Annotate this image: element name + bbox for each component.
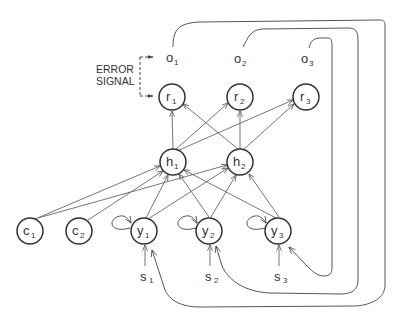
error-label-line2: SIGNAL xyxy=(96,75,135,87)
diagram-canvas: ERROR SIGNAL o 1 o 2 xyxy=(0,0,401,321)
edges-input-to-y xyxy=(145,245,279,266)
node-r1: r 1 xyxy=(159,84,185,110)
output-o2: o 2 xyxy=(234,51,247,68)
svg-text:2: 2 xyxy=(80,231,85,240)
node-r2: r 2 xyxy=(227,84,253,110)
node-c2: c 2 xyxy=(66,218,92,244)
node-h2: h 2 xyxy=(227,149,253,175)
svg-text:s: s xyxy=(274,269,281,284)
svg-text:y: y xyxy=(271,223,278,238)
svg-text:2: 2 xyxy=(241,162,246,171)
feedback-o1-y1 xyxy=(152,20,385,307)
svg-text:2: 2 xyxy=(242,59,247,68)
svg-text:r: r xyxy=(234,89,239,104)
svg-text:2: 2 xyxy=(240,97,245,106)
svg-text:c: c xyxy=(23,223,30,238)
svg-text:c: c xyxy=(72,223,79,238)
svg-text:3: 3 xyxy=(283,276,288,285)
recurrent-network-diagram: ERROR SIGNAL o 1 o 2 xyxy=(0,0,401,321)
node-y2: y 2 xyxy=(196,218,222,244)
node-c1: c 1 xyxy=(17,218,43,244)
feedback-loops xyxy=(152,20,385,307)
svg-text:1: 1 xyxy=(31,231,36,240)
svg-text:y: y xyxy=(202,223,209,238)
output-o1: o 1 xyxy=(166,50,179,67)
svg-text:3: 3 xyxy=(306,97,311,106)
svg-text:h: h xyxy=(233,154,240,169)
svg-text:3: 3 xyxy=(279,231,284,240)
svg-text:o: o xyxy=(301,51,308,66)
svg-text:s: s xyxy=(205,269,212,284)
svg-text:3: 3 xyxy=(309,59,314,68)
svg-text:r: r xyxy=(300,89,305,104)
input-s1: s 1 xyxy=(140,269,154,285)
svg-text:2: 2 xyxy=(214,276,219,285)
output-o3: o 3 xyxy=(301,51,314,68)
svg-text:s: s xyxy=(140,269,147,284)
svg-text:1: 1 xyxy=(174,58,179,67)
node-h1: h 1 xyxy=(160,149,186,175)
error-signal-bracket xyxy=(140,57,153,96)
svg-text:2: 2 xyxy=(210,231,215,240)
svg-text:h: h xyxy=(166,154,173,169)
input-s2: s 2 xyxy=(205,269,219,285)
feedback-o3-y3 xyxy=(289,38,332,276)
svg-text:1: 1 xyxy=(174,162,179,171)
svg-text:1: 1 xyxy=(145,231,150,240)
input-s3: s 3 xyxy=(274,269,288,285)
node-y1: y 1 xyxy=(131,218,157,244)
svg-text:1: 1 xyxy=(172,97,177,106)
svg-text:y: y xyxy=(137,223,144,238)
svg-text:1: 1 xyxy=(149,276,154,285)
svg-text:o: o xyxy=(166,50,173,65)
svg-text:o: o xyxy=(234,51,241,66)
node-r3: r 3 xyxy=(293,84,319,110)
node-y3: y 3 xyxy=(265,218,291,244)
svg-text:r: r xyxy=(166,89,171,104)
error-label-line1: ERROR xyxy=(96,63,134,75)
